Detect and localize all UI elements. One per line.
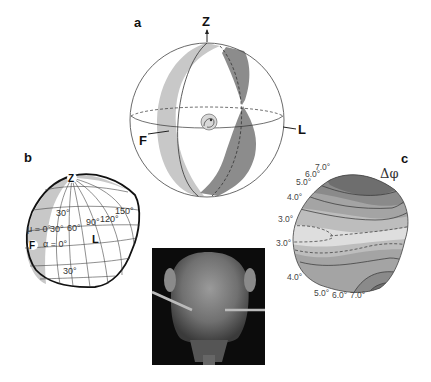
contour-label-bottom-6: 6.0° (332, 290, 347, 300)
contour-label-top-3: 3.0° (278, 214, 293, 224)
lat-30-top: 30° (56, 208, 70, 218)
lon-90: 90° (86, 217, 100, 227)
panel-b: b Z F L 30° (24, 150, 140, 287)
z-pole-label: Z (68, 173, 74, 184)
contour-label-bottom-7: 7.0° (350, 290, 365, 300)
panel-a-letter: a (134, 15, 142, 30)
delta-phi-label: Δφ (380, 166, 399, 181)
z-arrow-head (205, 29, 209, 34)
panel-b-letter: b (24, 150, 32, 165)
l-axis-label: L (298, 122, 306, 137)
lon-150: 150° (115, 206, 134, 216)
ant-eye-right (244, 268, 256, 292)
l-label: L (92, 233, 99, 245)
lon-60: 60° (67, 223, 81, 233)
contour-fills (290, 170, 415, 300)
ant-neck (203, 355, 215, 365)
f-axis-label: F (139, 133, 147, 148)
lat-30-bottom: 30° (63, 266, 77, 276)
z-axis-label: Z (202, 14, 210, 29)
figure: a Z F L b (0, 0, 431, 382)
dark-band-upper (222, 47, 249, 105)
panel-a: a Z F L (130, 14, 306, 197)
alpha-label: α = 0° (43, 239, 67, 249)
l-axis-line (283, 127, 296, 129)
mu-label: μ = 0° (27, 224, 51, 234)
panel-c-letter: c (401, 151, 408, 166)
ant-head (171, 252, 249, 344)
ant-head-icon (201, 114, 217, 130)
ant-eye-left (164, 268, 176, 292)
lon-30: 30° (50, 224, 64, 234)
contour-label-bottom-3: 3.0° (276, 238, 291, 248)
contour-label-bottom-5: 5.0° (314, 288, 329, 298)
contour-label-bottom-4: 4.0° (287, 272, 302, 282)
contour-label-top-5: 5.0° (296, 177, 311, 187)
contour-label-top-4: 4.0° (287, 192, 302, 202)
f-label: F (29, 240, 35, 251)
ant-head-photo (152, 248, 265, 365)
panel-c: c Δφ 7.0° (276, 151, 415, 300)
